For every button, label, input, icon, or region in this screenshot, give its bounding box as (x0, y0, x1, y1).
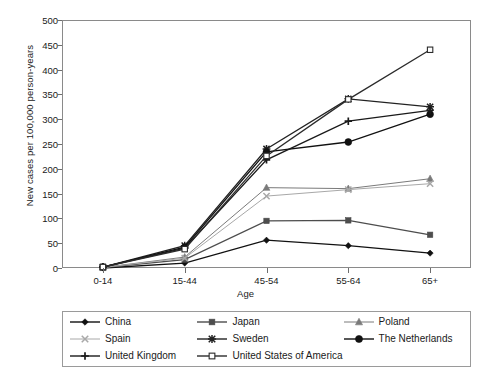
legend-label: United Kingdom (105, 351, 176, 361)
data-point-diamond (427, 250, 433, 256)
y-tick-label: 0 (24, 263, 58, 274)
series-united-states-of-america (100, 47, 433, 270)
incidence-by-age-line-chart: New cases per 100,000 person-years 05010… (0, 0, 491, 379)
legend-marker-diamond-icon (69, 316, 101, 328)
legend-label: Japan (232, 317, 259, 327)
legend-grid: ChinaJapanPolandSpainSwedenThe Netherlan… (63, 312, 470, 366)
legend-item-the-netherlands[interactable]: The Netherlands (343, 333, 470, 345)
x-tick-label: 0-14 (63, 275, 143, 286)
y-tick-label: 150 (24, 188, 58, 199)
y-tick-label: 200 (24, 163, 58, 174)
data-point-square (210, 319, 216, 325)
data-point-diamond (263, 237, 269, 243)
y-axis-tick-labels: 050100150200250300350400450500 (18, 0, 58, 268)
data-point-square (427, 232, 432, 237)
data-point-open-square (264, 153, 269, 158)
x-tick-mark (267, 268, 268, 273)
data-point-asterisk (208, 335, 216, 343)
legend-marker-square-icon (196, 316, 228, 328)
legend-item-united-states-of-america[interactable]: United States of America (196, 350, 342, 362)
y-tick-label: 300 (24, 114, 58, 125)
y-tick-label: 350 (24, 89, 58, 100)
data-point-open-square (427, 47, 432, 52)
data-point-diamond (345, 243, 351, 249)
data-point-open-square (182, 246, 187, 251)
legend-label: United States of America (232, 351, 342, 361)
x-tick-mark (348, 268, 349, 273)
legend-item-spain[interactable]: Spain (69, 333, 196, 345)
legend-marker-circle-icon (343, 333, 375, 345)
legend-label: The Netherlands (379, 334, 453, 344)
legend-marker-open-square-icon (196, 350, 228, 362)
legend-marker-asterisk-icon (196, 333, 228, 345)
x-tick-mark (103, 268, 104, 273)
legend-item-japan[interactable]: Japan (196, 316, 342, 328)
legend-marker-triangle-icon (343, 316, 375, 328)
data-point-open-square (210, 353, 216, 359)
legend-label: Spain (105, 334, 131, 344)
legend-label: Poland (379, 317, 410, 327)
data-point-circle (345, 139, 352, 146)
x-tick-mark (185, 268, 186, 273)
data-point-square (346, 218, 351, 223)
y-tick-label: 450 (24, 39, 58, 50)
y-tick-label: 50 (24, 238, 58, 249)
x-tick-label: 15-44 (145, 275, 225, 286)
x-axis-title: Age (0, 288, 491, 299)
data-point-square (264, 218, 269, 223)
x-tick-label: 55-64 (308, 275, 388, 286)
legend-marker-plus-icon (69, 350, 101, 362)
data-point-circle (355, 335, 362, 342)
y-tick-label: 500 (24, 15, 58, 26)
x-tick-mark (430, 268, 431, 273)
legend-item-sweden[interactable]: Sweden (196, 333, 342, 345)
series-line (103, 220, 430, 267)
legend-label: China (105, 317, 131, 327)
data-point-plus (81, 352, 89, 360)
legend-item-china[interactable]: China (69, 316, 196, 328)
data-point-plus (345, 117, 352, 124)
data-point-open-square (346, 97, 351, 102)
y-tick-label: 400 (24, 64, 58, 75)
y-tick-label: 250 (24, 139, 58, 150)
legend-marker-cross-light-icon (69, 333, 101, 345)
legend-label: Sweden (232, 334, 268, 344)
legend: ChinaJapanPolandSpainSwedenThe Netherlan… (62, 311, 471, 367)
y-tick-label: 100 (24, 213, 58, 224)
y-tick-mark (57, 268, 62, 269)
data-point-diamond (82, 319, 89, 326)
plot-area: New cases per 100,000 person-years 05010… (0, 0, 491, 300)
legend-item-united-kingdom[interactable]: United Kingdom (69, 350, 196, 362)
legend-item-poland[interactable]: Poland (343, 316, 470, 328)
series-layer (62, 20, 471, 268)
x-tick-label: 65+ (390, 275, 470, 286)
series-sweden (99, 95, 434, 271)
x-tick-label: 45-54 (227, 275, 307, 286)
